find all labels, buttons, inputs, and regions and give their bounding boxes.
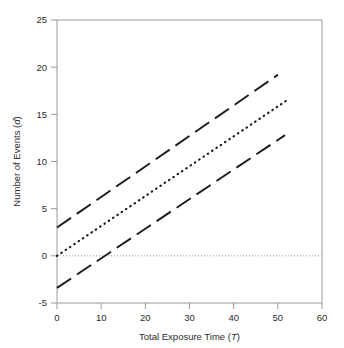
x-tick-labels: 0 10 20 30 40 50 60 (54, 312, 327, 323)
y-axis-ticks (51, 20, 57, 303)
line-chart: -5 0 5 10 15 20 25 0 10 20 30 40 50 60 T… (0, 0, 344, 348)
x-tick-label: 60 (317, 312, 328, 323)
x-axis-ticks (57, 303, 322, 309)
y-tick-label: 15 (36, 109, 47, 120)
y-axis-title: Number of Events (d) (11, 116, 22, 206)
x-tick-label: 40 (228, 312, 239, 323)
x-axis-title: Total Exposure Time (T) (139, 331, 240, 342)
y-tick-label: 5 (42, 203, 47, 214)
chart-figure: -5 0 5 10 15 20 25 0 10 20 30 40 50 60 T… (0, 0, 344, 348)
x-axis-title-close: ) (237, 331, 240, 342)
y-axis-title-text: Number of Events ( (11, 124, 22, 207)
y-tick-label: -5 (39, 297, 47, 308)
y-tick-labels: -5 0 5 10 15 20 25 (36, 14, 47, 308)
y-tick-label: 20 (36, 62, 47, 73)
y-axis-title-close: ) (11, 116, 22, 119)
x-tick-label: 50 (273, 312, 284, 323)
x-tick-label: 0 (54, 312, 59, 323)
y-tick-label: 10 (36, 156, 47, 167)
x-axis-title-text: Total Exposure Time ( (139, 331, 232, 342)
x-tick-label: 30 (184, 312, 195, 323)
y-tick-label: 25 (36, 14, 47, 25)
x-tick-label: 20 (140, 312, 151, 323)
x-tick-label: 10 (96, 312, 107, 323)
y-tick-label: 0 (42, 250, 47, 261)
